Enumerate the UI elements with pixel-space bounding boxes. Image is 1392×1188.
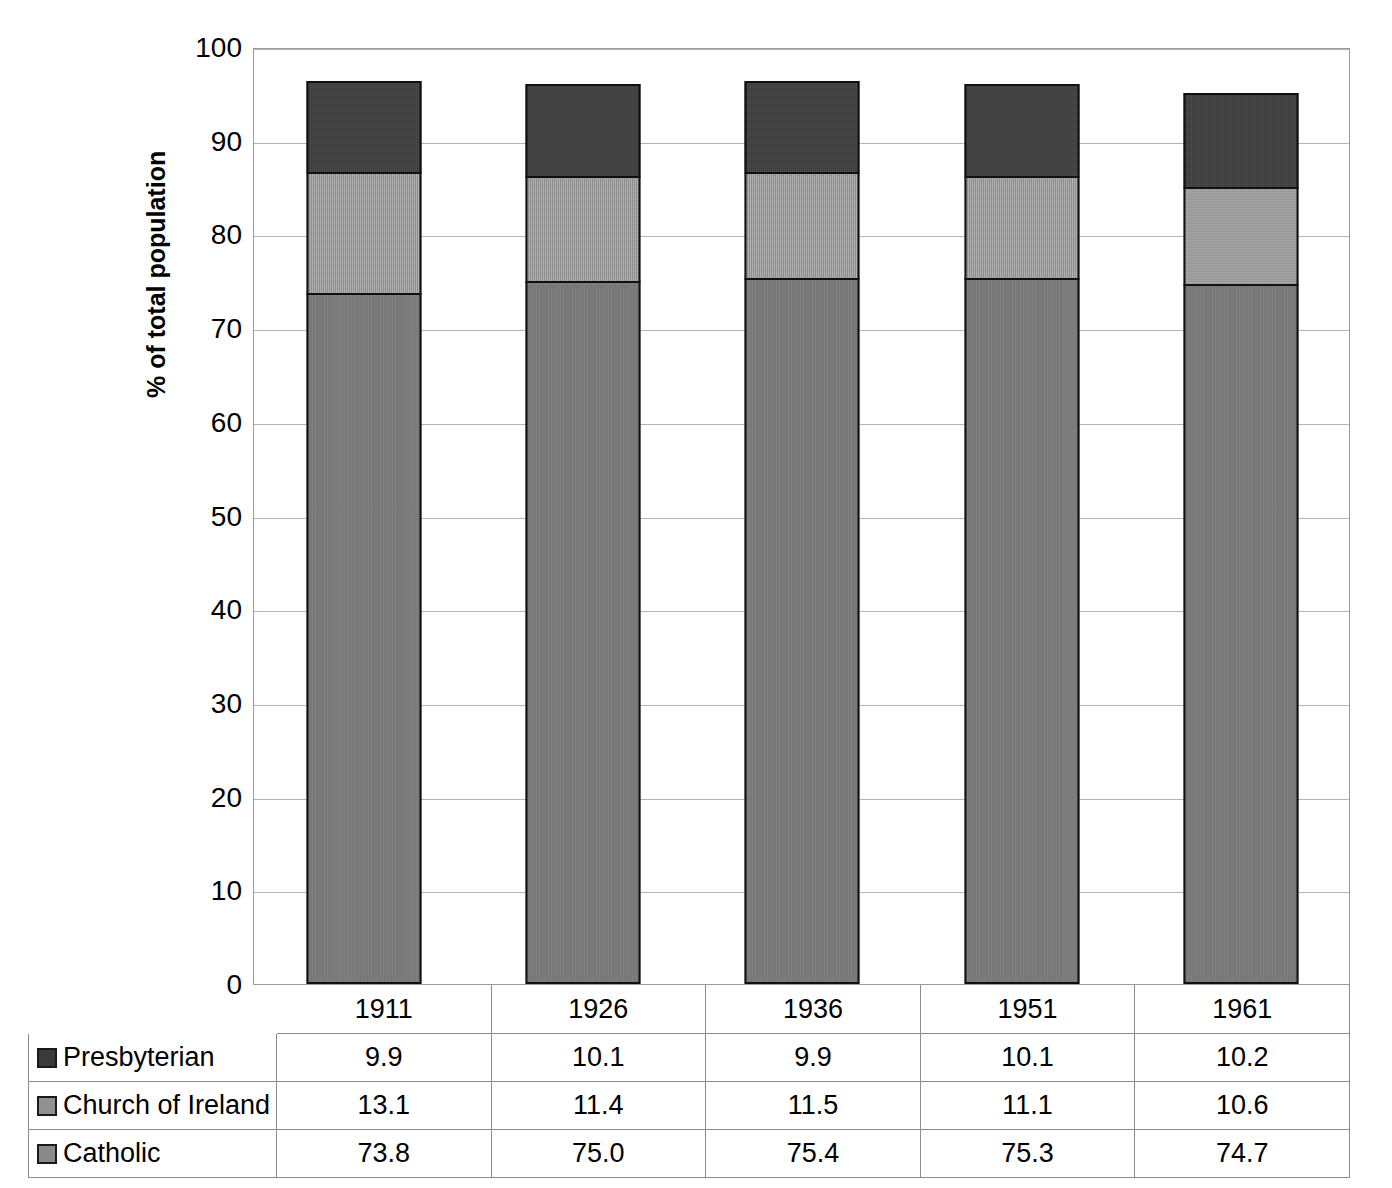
table-cell-value: 75.0 [491,1130,706,1178]
table-cell-value: 11.1 [920,1082,1135,1130]
bar-column[interactable] [473,49,692,984]
bar-segment-catholic[interactable] [1184,284,1299,984]
table-cell-value: 10.1 [491,1034,706,1082]
table-cell-value: 73.8 [277,1130,491,1178]
table-cell-value: 11.5 [706,1082,921,1130]
table-cell-value: 13.1 [277,1082,491,1130]
stacked-bar[interactable] [1184,93,1299,984]
legend-row-label: Church of Ireland [29,1082,277,1130]
table-cell-value: 10.6 [1135,1082,1350,1130]
table-row: Church of Ireland13.111.411.511.110.6 [29,1082,1350,1130]
chart-figure: % of total population 010203040506070809… [0,0,1392,1188]
bar-segment-presbyterian[interactable] [526,84,641,179]
bar-segment-catholic[interactable] [745,278,860,984]
bar-column[interactable] [912,49,1131,984]
table-cell-value: 9.9 [706,1034,921,1082]
legend-series-name: Catholic [63,1138,161,1168]
y-axis-tick-label: 10 [152,877,242,905]
y-axis-tick-label: 70 [152,315,242,343]
bar-segment-presbyterian[interactable] [745,81,860,174]
bar-series-group [254,49,1349,984]
table-column-header: 1911 [277,986,491,1034]
legend-row-label: Catholic [29,1130,277,1178]
table-cell-value: 11.4 [491,1082,706,1130]
stacked-bar[interactable] [306,81,421,984]
table-column-header: 1926 [491,986,706,1034]
bar-segment-church-of-ireland[interactable] [306,172,421,295]
table-cell-value: 75.3 [920,1130,1135,1178]
y-axis-tick-label: 50 [152,503,242,531]
y-axis-tick-label: 90 [152,128,242,156]
bar-segment-church-of-ireland[interactable] [745,172,860,280]
bar-column[interactable] [254,49,473,984]
legend-swatch-icon [37,1144,57,1164]
table-column-header: 1936 [706,986,921,1034]
legend-series-name: Presbyterian [63,1042,215,1072]
bar-segment-church-of-ireland[interactable] [1184,187,1299,286]
bar-column[interactable] [1132,49,1351,984]
y-axis-tick-label: 60 [152,409,242,437]
legend-series-name: Church of Ireland [63,1090,270,1120]
y-axis-tick-label: 30 [152,690,242,718]
table-cell-value: 10.2 [1135,1034,1350,1082]
y-axis-tick-label: 40 [152,596,242,624]
data-table: 19111926193619511961Presbyterian9.910.19… [28,985,1350,1178]
bar-segment-church-of-ireland[interactable] [526,176,641,283]
table-column-header: 1951 [920,986,1135,1034]
plot-area [253,48,1350,985]
bar-segment-catholic[interactable] [964,278,1079,984]
y-axis-tick-label: 80 [152,221,242,249]
y-axis-tick-label: 100 [152,34,242,62]
table-row: Catholic73.875.075.475.374.7 [29,1130,1350,1178]
bar-segment-presbyterian[interactable] [306,81,421,174]
bar-segment-presbyterian[interactable] [1184,93,1299,189]
table-cell-value: 10.1 [920,1034,1135,1082]
bar-segment-catholic[interactable] [306,293,421,985]
table-cell-value: 75.4 [706,1130,921,1178]
bar-column[interactable] [693,49,912,984]
y-axis-tick-label: 20 [152,784,242,812]
stacked-bar[interactable] [745,81,860,984]
stacked-bar[interactable] [526,84,641,984]
bar-segment-presbyterian[interactable] [964,84,1079,179]
table-cell-value: 9.9 [277,1034,491,1082]
table-column-header: 1961 [1135,986,1350,1034]
table-header-row: 19111926193619511961 [29,986,1350,1034]
legend-swatch-icon [37,1048,57,1068]
table-row: Presbyterian9.910.19.910.110.2 [29,1034,1350,1082]
bar-segment-catholic[interactable] [526,281,641,984]
table-corner-cell [29,986,277,1034]
table-cell-value: 74.7 [1135,1130,1350,1178]
legend-swatch-icon [37,1096,57,1116]
stacked-bar[interactable] [964,84,1079,984]
bar-segment-church-of-ireland[interactable] [964,176,1079,280]
legend-row-label: Presbyterian [29,1034,277,1082]
